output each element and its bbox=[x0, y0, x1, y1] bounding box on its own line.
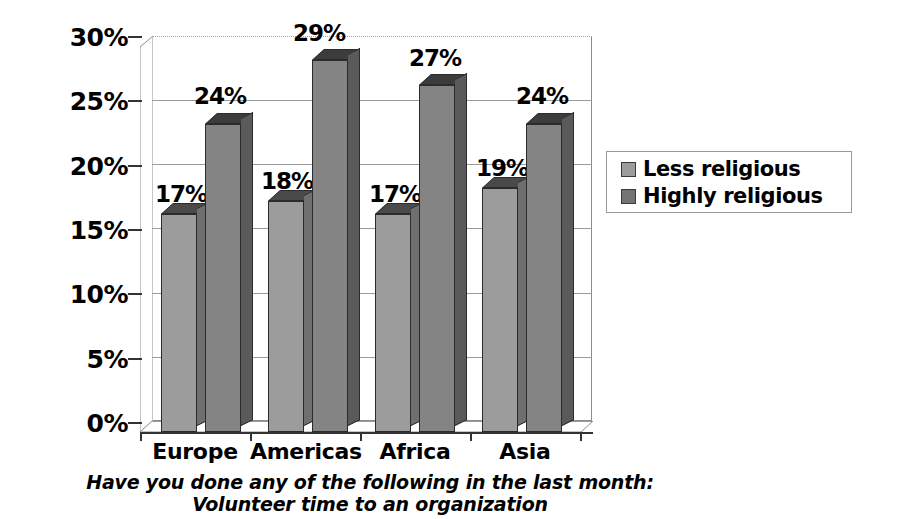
legend-item-less-religious[interactable]: Less religious bbox=[621, 156, 851, 183]
bar-europe-highly-religious[interactable] bbox=[205, 124, 241, 432]
bar-front-face bbox=[482, 188, 518, 432]
legend-swatch-less-religious-icon bbox=[621, 162, 636, 177]
bar-side-face bbox=[562, 112, 574, 426]
bar-value-africa-less-religious: 17% bbox=[369, 183, 421, 206]
x-category-label-europe: Europe bbox=[140, 441, 250, 463]
bar-africa-highly-religious[interactable] bbox=[419, 85, 455, 432]
legend-item-highly-religious[interactable]: Highly religious bbox=[621, 183, 851, 210]
bar-front-face bbox=[419, 85, 455, 432]
legend-label-less-religious: Less religious bbox=[643, 159, 800, 180]
bar-side-face bbox=[348, 48, 360, 426]
bar-value-africa-highly-religious: 27% bbox=[409, 47, 461, 70]
legend-swatch-highly-religious-icon bbox=[621, 189, 636, 204]
caption-line-2: Volunteer time to an organization bbox=[60, 493, 680, 515]
x-category-label-americas: Americas bbox=[250, 441, 360, 463]
bar-value-europe-less-religious: 17% bbox=[155, 183, 207, 206]
x-tick-mark-0 bbox=[140, 432, 142, 441]
bar-americas-less-religious[interactable] bbox=[268, 201, 304, 432]
bar-front-face bbox=[375, 214, 411, 432]
bar-value-asia-less-religious: 19% bbox=[476, 157, 528, 180]
bar-value-americas-less-religious: 18% bbox=[261, 170, 313, 193]
bar-value-americas-highly-religious: 29% bbox=[293, 22, 345, 45]
bar-asia-highly-religious[interactable] bbox=[526, 124, 562, 432]
legend-label-highly-religious: Highly religious bbox=[643, 186, 823, 207]
bar-front-face bbox=[205, 124, 241, 432]
bar-front-face bbox=[312, 60, 348, 432]
bar-side-face bbox=[241, 112, 253, 426]
bar-europe-less-religious[interactable] bbox=[161, 214, 197, 432]
x-category-label-africa: Africa bbox=[360, 441, 470, 463]
bar-chart: 30% 25% 20% 15% 10% 5% 0% 17% 24% bbox=[0, 0, 900, 519]
bar-side-face bbox=[455, 73, 467, 426]
bar-asia-less-religious[interactable] bbox=[482, 188, 518, 432]
bar-front-face bbox=[526, 124, 562, 432]
x-tick-mark-4 bbox=[580, 432, 582, 441]
chart-legend: Less religious Highly religious bbox=[606, 151, 852, 213]
x-category-label-asia: Asia bbox=[470, 441, 580, 463]
x-axis-line bbox=[140, 432, 593, 434]
caption-line-1: Have you done any of the following in th… bbox=[60, 471, 680, 493]
bar-front-face bbox=[161, 214, 197, 432]
bar-value-asia-highly-religious: 24% bbox=[516, 85, 568, 108]
bar-africa-less-religious[interactable] bbox=[375, 214, 411, 432]
chart-caption: Have you done any of the following in th… bbox=[60, 471, 680, 516]
x-tick-mark-3 bbox=[470, 432, 472, 441]
bar-front-face bbox=[268, 201, 304, 432]
bar-value-europe-highly-religious: 24% bbox=[194, 85, 246, 108]
bar-americas-highly-religious[interactable] bbox=[312, 60, 348, 432]
